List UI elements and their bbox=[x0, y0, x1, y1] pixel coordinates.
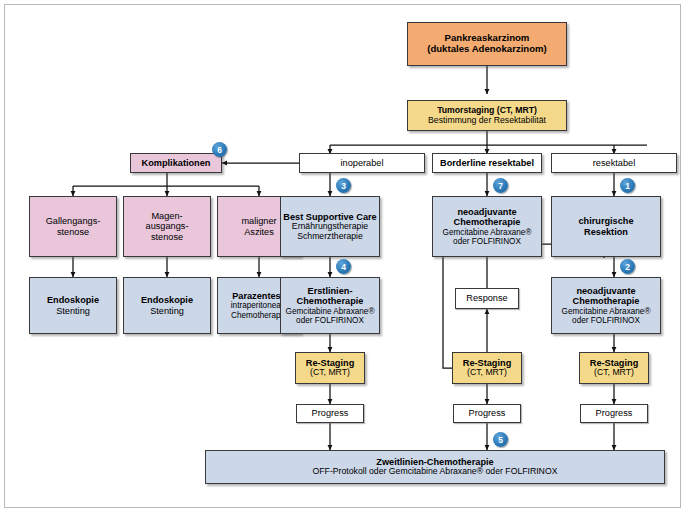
node-endoskopie-1-line1: Endoskopie bbox=[47, 295, 99, 305]
badge-7: 7 bbox=[493, 178, 508, 193]
node-neoadj-border-line2: Chemotherapie bbox=[454, 217, 521, 227]
node-response[interactable]: Response bbox=[455, 288, 519, 309]
node-erstlinien-line3: Gemcitabine Abraxane® bbox=[286, 307, 375, 316]
node-borderline-label: Borderline resektabel bbox=[440, 158, 534, 168]
node-magenausgangsstenose[interactable]: Magen- ausgangs- stenose bbox=[123, 196, 211, 257]
node-inoperabel-label: inoperabel bbox=[341, 158, 384, 168]
node-inoperabel[interactable]: inoperabel bbox=[299, 153, 425, 173]
node-borderline-resektabel[interactable]: Borderline resektabel bbox=[432, 153, 542, 173]
node-restaging-mid-line2: (CT, MRT) bbox=[467, 368, 507, 378]
node-neoadjuvante-chemo-resektabel[interactable]: neoadjuvante Chemotherapie Gemcitabine A… bbox=[551, 277, 661, 334]
node-erstlinien-line1: Erstlinien- bbox=[308, 286, 353, 296]
node-chirurgische-resektion-line1: chirurgische bbox=[578, 216, 633, 226]
node-maligner-aszites-line2: Aszites bbox=[244, 227, 274, 237]
node-neoadj-border-line4: oder FOLFIRINOX bbox=[453, 237, 521, 246]
node-komplikationen-label: Komplikationen bbox=[142, 158, 211, 168]
node-restaging-right-line2: (CT, MRT) bbox=[594, 368, 634, 378]
node-parazentese-line3: Chemotherapie bbox=[231, 311, 287, 320]
badge-1: 1 bbox=[620, 178, 635, 193]
node-endoskopie-2-line2: Stenting bbox=[150, 306, 184, 316]
node-progress-mid-label: Progress bbox=[469, 408, 506, 418]
node-neoadj-resekt-line2: Chemotherapie bbox=[573, 296, 640, 306]
node-neoadj-border-line1: neoadjuvante bbox=[457, 207, 516, 217]
node-restaging-right[interactable]: Re-Staging (CT, MRT) bbox=[579, 352, 649, 384]
node-erstlinien-line4: oder FOLFIRINOX bbox=[296, 316, 364, 325]
node-zweitlinien-chemotherapie[interactable]: Zweitlinien-Chemotherapie OFF-Protokoll … bbox=[205, 450, 665, 484]
node-endoskopie-2[interactable]: Endoskopie Stenting bbox=[123, 277, 211, 334]
node-pankreaskarzinom-line2: (duktales Adenokarzinom) bbox=[427, 44, 547, 55]
node-tumorstaging-line2: Bestimmung der Resektabilität bbox=[428, 116, 546, 126]
node-endoskopie-1-line2: Stenting bbox=[56, 306, 90, 316]
node-progress-mid[interactable]: Progress bbox=[453, 404, 521, 423]
badge-3: 3 bbox=[336, 178, 351, 193]
node-maligner-aszites-line1: maligner bbox=[241, 216, 276, 226]
node-best-supportive-care[interactable]: Best Supportive Care Ernährungstherapie … bbox=[280, 196, 380, 257]
badge-4: 4 bbox=[336, 259, 351, 274]
node-response-label: Response bbox=[466, 293, 507, 303]
node-gallengangsstenose[interactable]: Gallengangs- stenose bbox=[29, 196, 117, 257]
node-chirurgische-resektion-line2: Resektion bbox=[584, 227, 628, 237]
node-resektabel-label: resektabel bbox=[593, 158, 635, 168]
node-parazentese-line1: Parazentese bbox=[232, 291, 286, 301]
node-gallengangsstenose-line2: stenose bbox=[57, 227, 89, 237]
node-magenausgangsstenose-line3: stenose bbox=[151, 232, 183, 242]
node-magenausgangsstenose-line1: Magen- bbox=[151, 211, 182, 221]
badge-6: 6 bbox=[212, 142, 227, 157]
node-progress-right[interactable]: Progress bbox=[580, 404, 648, 423]
node-neoadj-resekt-line1: neoadjuvante bbox=[576, 286, 635, 296]
node-endoskopie-2-line1: Endoskopie bbox=[141, 295, 193, 305]
node-chirurgische-resektion[interactable]: chirurgische Resektion bbox=[551, 196, 661, 257]
node-neoadj-border-line3: Gemcitabine Abraxane® bbox=[443, 228, 532, 237]
node-zweitlinien-line2: OFF-Protokoll oder Gemcitabine Abraxane®… bbox=[313, 467, 558, 477]
node-endoskopie-1[interactable]: Endoskopie Stenting bbox=[29, 277, 117, 334]
node-resektabel[interactable]: resektabel bbox=[551, 153, 677, 173]
node-tumorstaging[interactable]: Tumorstaging (CT, MRT) Bestimmung der Re… bbox=[407, 100, 567, 131]
node-pankreaskarzinom[interactable]: Pankreaskarzinom (duktales Adenokarzinom… bbox=[407, 22, 567, 66]
node-progress-left-label: Progress bbox=[312, 408, 349, 418]
node-progress-right-label: Progress bbox=[596, 408, 633, 418]
node-erstlinien-line2: Chemotherapie bbox=[297, 296, 364, 306]
connector-layer bbox=[0, 0, 687, 514]
badge-2: 2 bbox=[620, 259, 635, 274]
node-restaging-mid[interactable]: Re-Staging (CT, MRT) bbox=[452, 352, 522, 384]
node-progress-left[interactable]: Progress bbox=[296, 404, 364, 423]
badge-5: 5 bbox=[493, 432, 508, 447]
node-komplikationen[interactable]: Komplikationen bbox=[130, 153, 222, 173]
node-neoadjuvante-chemo-borderline[interactable]: neoadjuvante Chemotherapie Gemcitabine A… bbox=[432, 196, 542, 257]
flowchart-canvas: Pankreaskarzinom (duktales Adenokarzinom… bbox=[0, 0, 687, 514]
node-gallengangsstenose-line1: Gallengangs- bbox=[46, 216, 101, 226]
node-neoadj-resekt-line3: Gemcitabine Abraxane® bbox=[562, 307, 651, 316]
node-erstlinien-chemotherapie[interactable]: Erstlinien- Chemotherapie Gemcitabine Ab… bbox=[280, 277, 380, 334]
node-parazentese-line2: intraperitoneale bbox=[231, 301, 287, 310]
node-magenausgangsstenose-line2: ausgangs- bbox=[146, 221, 189, 231]
node-restaging-left-line2: (CT, MRT) bbox=[310, 368, 350, 378]
node-bsc-line3: Schmerztherapie bbox=[297, 232, 363, 242]
node-restaging-left[interactable]: Re-Staging (CT, MRT) bbox=[295, 352, 365, 384]
node-neoadj-resekt-line4: oder FOLFIRINOX bbox=[572, 316, 640, 325]
